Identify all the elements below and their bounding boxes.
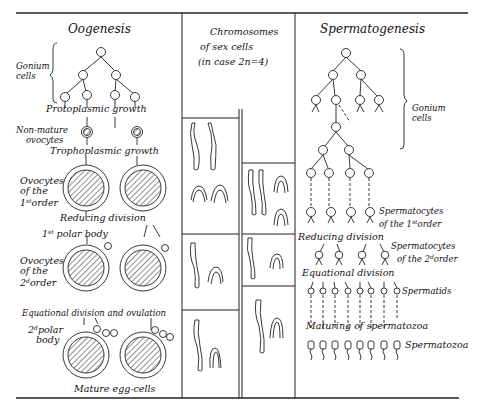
maturing-spermatozoa-label: Maturing of spermatozoa (306, 321, 428, 331)
chromosomes-title: Chromosomes of sex cells (in case 2n=4) (200, 24, 278, 69)
trophoplasmic-growth-label: Trophoplasmic growth (50, 146, 159, 156)
sp1-text-pre: of the (379, 219, 407, 229)
spermatocytes-1st-order-label: Spermatocytes of the 1storder (379, 207, 443, 229)
equational-division-ovulation-label: Equational division and ovulation (22, 309, 166, 319)
ovocytes1-text-rest: order (32, 197, 59, 208)
spermatocytes-2nd-order-label: Spermatocytes of the 2dorder (391, 242, 458, 264)
mature-egg-cells-label: Mature egg-cells (74, 384, 155, 394)
chromosomes-title-3: (in case 2n=4) (198, 56, 268, 67)
oogenesis-gonium-label: Gonium cells (16, 62, 50, 81)
ovocytes1-text-b: of the (20, 185, 48, 196)
reducing-division-oogenesis-label: Reducing division (60, 213, 146, 223)
sp2-text-a: Spermatocytes (391, 241, 455, 251)
chromosomes-title-1: Chromosomes (210, 26, 278, 37)
ovocytes2-text-rest: order (30, 277, 57, 288)
protoplasmic-growth-label: Protoplasmic growth (46, 104, 147, 114)
oogenesis-tree (50, 43, 174, 378)
chromosomes-title-2: of sex cells (200, 41, 253, 52)
equational-division-label: Equational division (302, 268, 395, 278)
spermatozoa-row (308, 341, 400, 360)
spermatids-label: Spermatids (402, 287, 451, 297)
first-polar-body-label: 1st polar body (42, 227, 108, 239)
spermatogenesis-title: Spermatogenesis (320, 23, 425, 36)
polar1-sup: st (48, 228, 54, 235)
spermatozoa-label: Spermatozoa (405, 340, 468, 350)
nonmature-text-2: ovocytes (26, 135, 63, 145)
polar1-rest: polar body (57, 228, 108, 239)
nonmature-text-1: Non-mature (16, 125, 68, 135)
gonium-text-1: Gonium (16, 61, 50, 71)
spermatogenesis-gonium-label: Gonium cells (412, 104, 446, 123)
sp1-text-a: Spermatocytes (379, 206, 443, 216)
nonmature-ovocytes-label: Non-mature ovocytes (16, 126, 68, 145)
ovocytes2-text-b: of the (20, 265, 48, 276)
sp1-text-rest: order (418, 219, 442, 229)
ovocytes-1st-order-label: Ovocytes of the 1storder (20, 176, 64, 208)
sp-gonium-text-1: Gonium (412, 103, 446, 113)
reducing-division-spermatogenesis-label: Reducing division (298, 232, 384, 242)
sp2-text-pre: of the (397, 254, 425, 264)
ovocytes-2nd-order-label: Ovocytes of the 2dorder (20, 256, 64, 288)
second-polar-body-label: 2dpolar body (28, 323, 63, 345)
gonium-text-2: cells (16, 71, 36, 81)
oogenesis-title: Oogenesis (68, 23, 131, 36)
polar2-b: body (36, 334, 59, 345)
sp-gonium-text-2: cells (412, 113, 432, 123)
sp2-text-rest: order (434, 254, 458, 264)
spermatogenesis-tree (307, 49, 408, 361)
